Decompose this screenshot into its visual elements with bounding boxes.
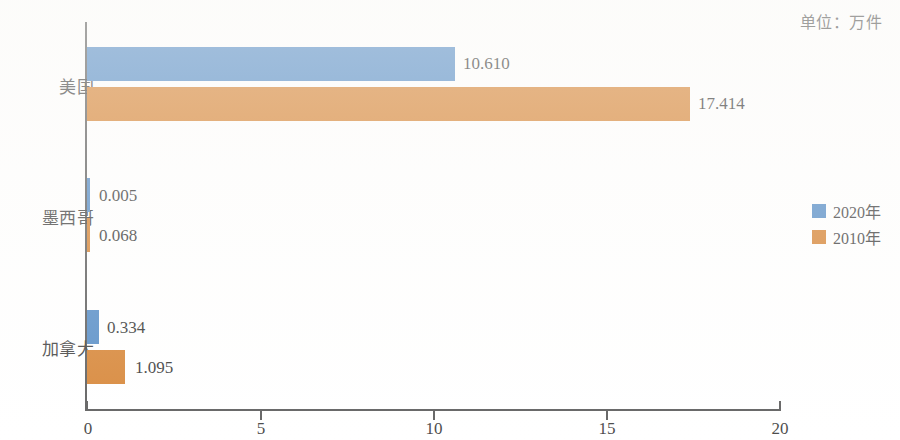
x-axis-tick-0 [86,401,88,411]
x-axis-tick-label-20: 20 [772,419,789,439]
bar-value-canada-2020: 0.334 [107,318,145,338]
x-axis-tick-label-0: 0 [84,419,93,439]
bar-chart: 单位：万件 0 5 10 15 20 美国 墨西哥 加拿大 10.610 17.… [0,0,900,440]
bar-mexico-2010 [87,218,90,252]
legend-item-2020: 2020年 [812,198,881,224]
legend-swatch-icon-2020 [812,204,826,218]
legend-item-2010: 2010年 [812,224,881,250]
legend-label-2010: 2010年 [833,225,881,249]
bar-value-mexico-2010: 0.068 [99,226,137,246]
bar-value-canada-2010: 1.095 [135,358,173,378]
bar-value-mexico-2020: 0.005 [99,186,137,206]
bar-value-usa-2010: 17.414 [698,94,745,114]
chart-legend: 2020年 2010年 [812,198,881,250]
bar-canada-2010 [87,350,125,384]
x-axis-tick-label-5: 5 [257,419,266,439]
legend-swatch-icon-2010 [812,230,826,244]
bar-usa-2010 [87,87,690,121]
unit-caption: 单位：万件 [800,9,883,33]
bar-mexico-2020 [87,178,90,212]
legend-label-2020: 2020年 [833,199,881,223]
x-axis-tick-label-10: 10 [426,419,443,439]
x-axis-tick-20 [779,401,781,411]
x-axis-tick-label-15: 15 [599,419,616,439]
bar-value-usa-2020: 10.610 [463,54,510,74]
bar-usa-2020 [87,47,455,81]
bar-canada-2020 [87,310,99,344]
